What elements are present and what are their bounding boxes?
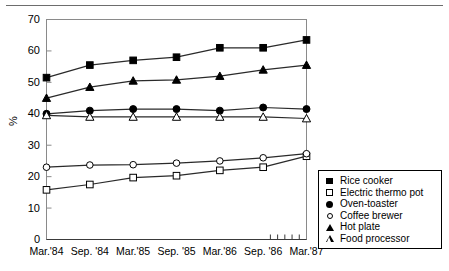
data-point-marker bbox=[260, 154, 267, 161]
open-triangle-icon bbox=[324, 233, 337, 244]
chart-legend: Rice cookerElectric thermo potOven-toast… bbox=[318, 170, 442, 249]
filled-square-icon bbox=[324, 175, 337, 186]
open-square-icon bbox=[324, 187, 337, 198]
legend-item-label: Food processor bbox=[340, 233, 409, 244]
series-food-processor bbox=[42, 111, 310, 122]
data-point-marker bbox=[260, 104, 267, 111]
data-point-marker bbox=[302, 61, 310, 68]
legend-item: Oven-toaster bbox=[324, 198, 437, 210]
data-point-marker bbox=[260, 44, 267, 51]
filled-triangle-icon bbox=[324, 221, 337, 232]
data-point-marker bbox=[43, 74, 50, 81]
series-rice-cooker bbox=[43, 37, 310, 81]
chart-page: 010203040506070 % Mar.'84Sep. '84Mar.'85… bbox=[0, 0, 449, 271]
data-point-marker bbox=[130, 106, 137, 113]
data-point-marker bbox=[173, 160, 180, 167]
open-circle-icon bbox=[324, 210, 337, 221]
data-point-marker bbox=[87, 181, 94, 188]
data-point-marker bbox=[303, 106, 310, 113]
legend-item-label: Electric thermo pot bbox=[340, 187, 423, 198]
legend-item: Hot plate bbox=[324, 221, 437, 233]
legend-item-label: Hot plate bbox=[340, 221, 380, 232]
data-point-marker bbox=[303, 37, 310, 44]
legend-item-label: Coffee brewer bbox=[340, 210, 403, 221]
data-point-marker bbox=[173, 172, 180, 179]
data-point-marker bbox=[217, 158, 224, 165]
data-point-marker bbox=[173, 54, 180, 61]
data-point-marker bbox=[130, 174, 137, 181]
data-point-marker bbox=[303, 150, 310, 157]
data-point-marker bbox=[173, 106, 180, 113]
series-electric-thermo-pot bbox=[43, 153, 310, 193]
series-coffee-brewer bbox=[43, 150, 310, 170]
data-point-marker bbox=[217, 167, 224, 174]
data-point-marker bbox=[43, 164, 50, 171]
legend-item-label: Rice cooker bbox=[340, 175, 393, 186]
legend-item: Electric thermo pot bbox=[324, 187, 437, 199]
legend-item: Food processor bbox=[324, 233, 437, 245]
legend-item: Coffee brewer bbox=[324, 210, 437, 222]
data-point-marker bbox=[130, 57, 137, 64]
data-point-marker bbox=[87, 62, 94, 69]
data-point-marker bbox=[217, 44, 224, 51]
data-point-marker bbox=[130, 161, 137, 168]
legend-item: Rice cooker bbox=[324, 175, 437, 187]
legend-item-label: Oven-toaster bbox=[340, 198, 398, 209]
data-point-marker bbox=[43, 187, 50, 194]
data-point-marker bbox=[87, 162, 94, 169]
filled-circle-icon bbox=[324, 198, 337, 209]
data-point-marker bbox=[260, 164, 267, 171]
